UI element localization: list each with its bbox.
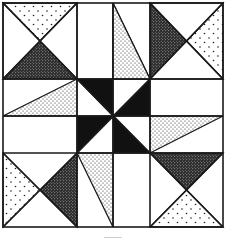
- bottom-mid-left-long-triangle: [77, 153, 113, 227]
- bottom-right-top-triangle: [150, 153, 223, 190]
- mid-right-lower-long-triangle: [150, 116, 223, 153]
- bottom-left-right-triangle: [40, 153, 77, 227]
- bottom-right-bottom-triangle: [150, 190, 223, 227]
- bottom-left-left-triangle: [3, 153, 40, 227]
- top-mid-right-long-triangle: [113, 3, 150, 79]
- caption-fragment: [104, 237, 122, 238]
- quilt-block: [0, 0, 226, 242]
- mid-left-upper-long-triangle: [3, 79, 77, 116]
